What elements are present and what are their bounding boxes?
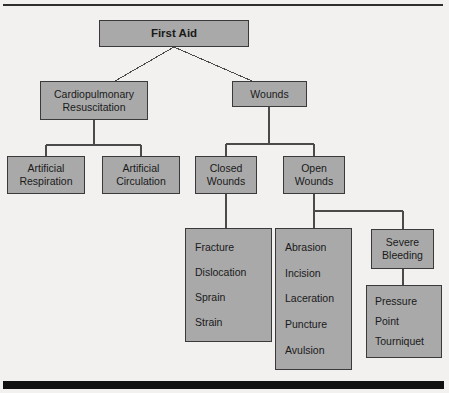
node-artificial-circulation[interactable]: Artificial Circulation (102, 156, 180, 194)
node-cardiopulmonary-resuscitation[interactable]: Cardiopulmonary Resuscitation (40, 81, 148, 120)
node-line: Wounds (250, 88, 288, 101)
node-line: Open (301, 162, 327, 175)
list-item: Tourniquet (375, 335, 441, 348)
list-item: Dislocation (195, 266, 271, 279)
list-item: Point (375, 315, 441, 328)
list-item: Abrasion (285, 241, 351, 254)
node-line: Wounds (295, 175, 333, 188)
list-item: Incision (285, 267, 351, 280)
node-closed-wounds[interactable]: Closed Wounds (195, 156, 257, 194)
list-item: Puncture (285, 318, 351, 331)
node-wounds[interactable]: Wounds (232, 81, 307, 107)
node-open-wound-types[interactable]: Abrasion Incision Laceration Puncture Av… (275, 228, 352, 370)
node-line: Resuscitation (62, 101, 125, 114)
node-severe-bleeding[interactable]: Severe Bleeding (371, 229, 434, 269)
first-aid-diagram: First Aid Cardiopulmonary Resuscitation … (0, 0, 449, 393)
node-line: Bleeding (382, 249, 423, 262)
list-item: Laceration (285, 292, 351, 305)
node-closed-wound-types[interactable]: Fracture Dislocation Sprain Strain (185, 228, 272, 342)
node-line: Wounds (207, 175, 245, 188)
list-item: Strain (195, 316, 271, 329)
node-line: Closed (210, 162, 243, 175)
top-rule (3, 4, 443, 6)
node-line: Circulation (116, 175, 166, 188)
node-first-aid[interactable]: First Aid (99, 20, 249, 47)
node-line: Severe (386, 236, 419, 249)
node-artificial-respiration[interactable]: Artificial Respiration (7, 156, 85, 194)
node-bleeding-control[interactable]: Pressure Point Tourniquet (366, 285, 442, 358)
list-item: Sprain (195, 291, 271, 304)
list-item: Fracture (195, 241, 271, 254)
node-line: First Aid (151, 27, 197, 40)
node-line: Artificial (28, 162, 65, 175)
list-item: Avulsion (285, 344, 351, 357)
node-line: Cardiopulmonary (54, 88, 134, 101)
node-open-wounds[interactable]: Open Wounds (283, 156, 345, 194)
bottom-bar (3, 381, 444, 389)
node-line: Artificial (123, 162, 160, 175)
node-line: Respiration (19, 175, 72, 188)
list-item: Pressure (375, 295, 441, 308)
